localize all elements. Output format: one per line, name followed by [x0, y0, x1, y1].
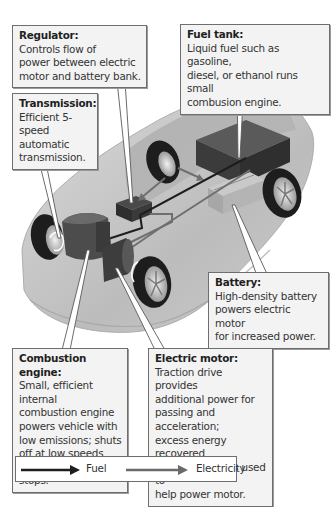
callout-text: combusion engine.	[187, 96, 324, 110]
callout-text: additional power for	[155, 393, 267, 407]
callout-regulator: Regulator: Controls flow of power betwee…	[12, 25, 147, 88]
callout-title: Combustion engine:	[19, 352, 122, 379]
callout-text: Controls flow of	[19, 43, 141, 57]
callout-transmission: Transmission: Efficient 5-speed automati…	[12, 93, 98, 170]
leader-combustion	[62, 250, 90, 350]
callout-text: diesel, or ethanol runs small	[187, 69, 324, 96]
callout-title: Electric motor:	[155, 352, 267, 366]
callout-text: for increased power.	[215, 330, 323, 344]
leader-electric-motor	[115, 268, 165, 350]
callout-battery: Battery: High-density battery powers ele…	[208, 272, 329, 349]
legend-electricity-label: Electricity	[196, 462, 245, 474]
callout-text: High-density battery	[215, 290, 323, 304]
callout-text: powers electric motor	[215, 303, 323, 330]
callout-text: Small, efficient internal	[19, 379, 122, 406]
callout-fuel-tank: Fuel tank: Liquid fuel such as gasoline,…	[180, 24, 330, 115]
callout-text: Traction drive provides	[155, 366, 267, 393]
callout-text: powers vehicle with	[19, 420, 122, 434]
legend-fuel-label: Fuel	[86, 462, 106, 474]
leader-battery	[232, 205, 268, 276]
leader-regulator	[117, 81, 133, 203]
callout-text: help power motor.	[155, 488, 267, 502]
callout-title: Battery:	[215, 276, 323, 290]
callout-text: passing and acceleration;	[155, 406, 267, 433]
callout-text: combustion engine	[19, 406, 122, 420]
callout-text: motor and battery bank.	[19, 70, 141, 84]
callout-text: power between electric	[19, 56, 141, 70]
legend: Fuel Electricity	[15, 456, 237, 482]
callout-text: transmission.	[19, 151, 92, 165]
dark-arrow-icon	[21, 465, 80, 475]
callout-text: automatic	[19, 138, 92, 152]
gray-arrow-icon	[126, 465, 188, 475]
callout-title: Regulator:	[19, 29, 141, 43]
callout-text: low emissions; shuts	[19, 434, 122, 448]
callout-text: Liquid fuel such as gasoline,	[187, 42, 324, 69]
callout-title: Transmission:	[19, 97, 92, 111]
callout-text: Efficient 5-speed	[19, 111, 92, 138]
callout-title: Fuel tank:	[187, 28, 324, 42]
